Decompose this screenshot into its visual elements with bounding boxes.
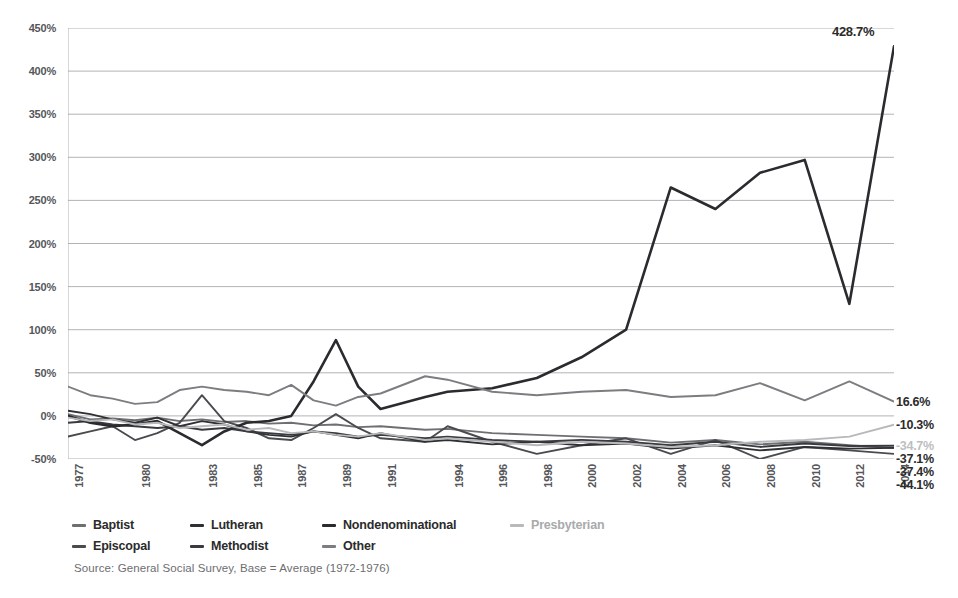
- legend-item-other[interactable]: Other: [322, 539, 375, 553]
- peak-annotation: 428.7%: [832, 24, 874, 39]
- x-axis-tick-label: 1991: [386, 464, 398, 488]
- y-axis-tick-label: 200%: [29, 238, 56, 250]
- legend-item-presbyterian[interactable]: Presbyterian: [510, 518, 604, 532]
- y-axis-tick-label: 100%: [29, 324, 56, 336]
- legend-label: Baptist: [93, 518, 134, 532]
- x-axis-tick-label: 2004: [676, 464, 688, 488]
- legend-swatch-icon: [190, 545, 204, 548]
- x-axis-tick-label: 1989: [341, 464, 353, 488]
- legend-swatch-icon: [72, 524, 86, 527]
- series-end-label: -10.3%: [896, 418, 934, 432]
- x-axis-tick-label: 1998: [542, 464, 554, 488]
- series-end-label: 16.6%: [896, 395, 930, 409]
- legend-row-2: EpiscopalMethodistOther: [72, 539, 772, 560]
- legend-item-lutheran[interactable]: Lutheran: [190, 518, 263, 532]
- series-end-label: -44.1%: [896, 478, 934, 492]
- source-note: Source: General Social Survey, Base = Av…: [74, 562, 390, 574]
- y-axis-tick-label: 0%: [41, 410, 57, 422]
- series-end-label: -34.7%: [896, 439, 934, 453]
- x-axis-tick-label: 2010: [810, 464, 822, 488]
- legend-swatch-icon: [322, 545, 336, 548]
- x-axis-tick-label: 2006: [720, 464, 732, 488]
- legend-item-baptist[interactable]: Baptist: [72, 518, 134, 532]
- legend-label: Presbyterian: [531, 518, 604, 532]
- legend-item-episcopal[interactable]: Episcopal: [72, 539, 150, 553]
- legend-label: Methodist: [211, 539, 268, 553]
- x-axis-tick-label: 1996: [497, 464, 509, 488]
- x-axis-tick-label: 1987: [296, 464, 308, 488]
- x-axis-tick-label: 1980: [140, 464, 152, 488]
- legend-swatch-icon: [190, 524, 204, 527]
- y-axis-tick-label: 350%: [29, 108, 56, 120]
- x-axis-tick-label: 2000: [586, 464, 598, 488]
- legend-label: Lutheran: [211, 518, 263, 532]
- legend-item-methodist[interactable]: Methodist: [190, 539, 268, 553]
- legend-label: Other: [343, 539, 375, 553]
- x-axis: 1977198019831985198719891991199419961998…: [68, 464, 894, 510]
- x-axis-tick-label: 2008: [765, 464, 777, 488]
- y-axis-tick-label: 300%: [29, 151, 56, 163]
- chart-container: 450%400%350%300%250%200%150%100%50%0%-50…: [0, 0, 958, 598]
- x-axis-tick-label: 1983: [207, 464, 219, 488]
- series-end-labels: 16.6%-10.3%-34.7%-37.1%-37.4%-44.1%: [896, 0, 958, 480]
- x-axis-tick-label: 2002: [631, 464, 643, 488]
- x-axis-tick-label: 1977: [73, 464, 85, 488]
- x-axis-tick-label: 2012: [854, 464, 866, 488]
- x-axis-tick-label: 1985: [252, 464, 264, 488]
- y-axis: 450%400%350%300%250%200%150%100%50%0%-50…: [0, 0, 62, 480]
- y-axis-tick-label: 250%: [29, 194, 56, 206]
- plot-svg: [68, 28, 894, 459]
- plot-area: [68, 28, 894, 459]
- y-axis-tick-label: 450%: [29, 22, 56, 34]
- series-line: [68, 46, 894, 445]
- legend-row-1: BaptistLutheranNondenominationalPresbyte…: [72, 518, 772, 539]
- series-end-label: -37.4%: [896, 465, 934, 479]
- series-line: [68, 376, 894, 405]
- y-axis-tick-label: 400%: [29, 65, 56, 77]
- legend-swatch-icon: [322, 524, 336, 527]
- legend: BaptistLutheranNondenominationalPresbyte…: [72, 518, 772, 560]
- legend-label: Nondenominational: [343, 518, 456, 532]
- y-axis-tick-label: -50%: [31, 453, 56, 465]
- y-axis-tick-label: 150%: [29, 281, 56, 293]
- series-end-label: -37.1%: [896, 452, 934, 466]
- legend-swatch-icon: [510, 524, 524, 527]
- x-axis-tick-label: 1994: [453, 464, 465, 488]
- legend-swatch-icon: [72, 545, 86, 548]
- y-axis-tick-label: 50%: [35, 367, 56, 379]
- legend-label: Episcopal: [93, 539, 150, 553]
- legend-item-nondenominational[interactable]: Nondenominational: [322, 518, 456, 532]
